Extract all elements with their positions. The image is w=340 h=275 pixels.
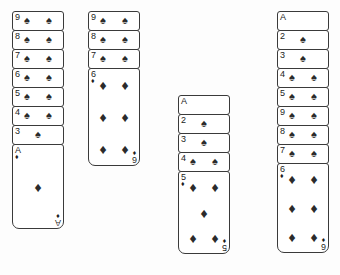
suit-spade-icon: ♠	[24, 53, 30, 64]
card-rank: 4	[280, 69, 285, 79]
card-index-top: 2	[280, 31, 285, 41]
card-rank: 8	[91, 31, 96, 41]
suit-spade-icon: ♠	[46, 72, 52, 83]
suit-spade-icon: ♠	[122, 15, 128, 26]
card-rank: 2	[181, 115, 186, 125]
card-rank: 2	[280, 31, 285, 41]
card-4-spade[interactable]: 4♠♠	[12, 106, 64, 126]
card-index-top: 4	[181, 153, 186, 163]
card-index-top: 6♦	[91, 69, 96, 84]
card-rank: 7	[15, 50, 20, 60]
suit-spade-icon: ♠	[122, 34, 128, 45]
suit-spade-icon: ♠	[289, 148, 295, 159]
suit-spade-icon: ♠	[100, 34, 106, 45]
card-rank: 6	[15, 69, 20, 79]
card-rank: 8	[15, 31, 20, 41]
suit-spade-icon: ♠	[24, 34, 30, 45]
card-index-bottom: 6♦	[132, 150, 137, 165]
card-rank: 7	[91, 50, 96, 60]
card-3-spade[interactable]: 3♠	[178, 133, 230, 153]
suit-spade-icon: ♠	[46, 110, 52, 121]
card-9-spade[interactable]: 9♠♠	[88, 11, 140, 31]
suit-spade-icon: ♠	[201, 118, 207, 129]
card-2-spade[interactable]: 2♠	[277, 30, 329, 50]
card-index-top: 8	[15, 31, 20, 41]
suit-spade-icon: ♠	[24, 15, 30, 26]
card-index-top: 5	[15, 88, 20, 98]
card-index-top: 3	[181, 134, 186, 144]
suit-spade-icon: ♠	[100, 15, 106, 26]
card-index-top: 7	[15, 50, 20, 60]
card-6-diamond[interactable]: 6♦♦♦♦♦♦♦6♦	[88, 68, 140, 166]
card-rank: 7	[280, 145, 285, 155]
suit-spade-icon: ♠	[24, 110, 30, 121]
card-index-top: 5♦	[181, 172, 186, 187]
suit-spade-icon: ♠	[311, 110, 317, 121]
suit-spade-icon: ♠	[35, 129, 41, 140]
card-5-spade[interactable]: 5♠♠	[277, 87, 329, 107]
suit-spade-icon: ♠	[46, 91, 52, 102]
card-index-top: 2	[181, 115, 186, 125]
suit-spade-icon: ♠	[311, 91, 317, 102]
suit-spade-icon: ♠	[46, 34, 52, 45]
card-index-bottom: 6♦	[321, 237, 326, 252]
card-5-diamond[interactable]: 5♦♦♦♦♦♦5♦	[178, 171, 230, 254]
suit-spade-icon: ♠	[190, 156, 196, 167]
card-7-spade[interactable]: 7♠♠	[12, 49, 64, 69]
suit-spade-icon: ♠	[46, 53, 52, 64]
suit-spade-icon: ♠	[24, 72, 30, 83]
suit-spade-icon: ♠	[289, 129, 295, 140]
card-9-spade[interactable]: 9♠♠	[277, 106, 329, 126]
card-2-spade[interactable]: 2♠	[178, 114, 230, 134]
card-4-spade[interactable]: 4♠♠	[178, 152, 230, 172]
card-6-diamond[interactable]: 6♦♦♦♦♦♦♦6♦	[277, 163, 329, 253]
card-rank: 3	[280, 50, 285, 60]
suit-spade-icon: ♠	[300, 53, 306, 64]
card-index-top: 9	[91, 12, 96, 22]
suit-spade-icon: ♠	[289, 72, 295, 83]
card-8-spade[interactable]: 8♠♠	[12, 30, 64, 50]
card-index-top: 3	[15, 126, 20, 136]
card-8-spade[interactable]: 8♠♠	[277, 125, 329, 145]
suit-spade-icon: ♠	[289, 91, 295, 102]
card-index-bottom: A♦	[55, 213, 61, 228]
card-index-top: 4	[280, 69, 285, 79]
card-index-top: A♦	[15, 145, 21, 160]
suit-spade-icon: ♠	[100, 53, 106, 64]
card-index-bottom: 5♦	[222, 238, 227, 253]
card-4-spade[interactable]: 4♠♠	[277, 68, 329, 88]
card-6-spade[interactable]: 6♠♠	[12, 68, 64, 88]
card-index-top: 9	[280, 107, 285, 117]
card-a-spade[interactable]: A	[277, 11, 329, 31]
card-a-diamond[interactable]: A♦♦A♦	[12, 144, 64, 229]
card-3-spade[interactable]: 3♠	[277, 49, 329, 69]
suit-spade-icon: ♠	[212, 156, 218, 167]
card-index-top: 5	[280, 88, 285, 98]
card-rank: 3	[181, 134, 186, 144]
card-index-top: 6♦	[280, 164, 285, 179]
suit-spade-icon: ♠	[46, 15, 52, 26]
card-5-spade[interactable]: 5♠♠	[12, 87, 64, 107]
card-3-spade[interactable]: 3♠	[12, 125, 64, 145]
card-rank: 5	[280, 88, 285, 98]
card-index-top: 7	[91, 50, 96, 60]
card-rank: 4	[15, 107, 20, 117]
card-index-top: 7	[280, 145, 285, 155]
suit-spade-icon: ♠	[201, 137, 207, 148]
suit-spade-icon: ♠	[300, 34, 306, 45]
card-rank: 3	[15, 126, 20, 136]
card-table: 9♠♠8♠♠7♠♠6♠♠5♠♠4♠♠3♠A♦♦A♦9♠♠8♠♠7♠♠6♦♦♦♦♦…	[0, 0, 340, 275]
card-index-top: 3	[280, 50, 285, 60]
card-a-spade[interactable]: A	[178, 95, 230, 115]
suit-spade-icon: ♠	[122, 53, 128, 64]
card-index-top: A	[280, 12, 286, 22]
card-rank: 8	[280, 126, 285, 136]
suit-spade-icon: ♠	[311, 129, 317, 140]
card-8-spade[interactable]: 8♠♠	[88, 30, 140, 50]
card-index-top: A	[181, 96, 187, 106]
suit-spade-icon: ♠	[24, 91, 30, 102]
card-7-spade[interactable]: 7♠♠	[88, 49, 140, 69]
card-9-spade[interactable]: 9♠♠	[12, 11, 64, 31]
card-7-spade[interactable]: 7♠♠	[277, 144, 329, 164]
card-rank: A	[181, 96, 187, 106]
